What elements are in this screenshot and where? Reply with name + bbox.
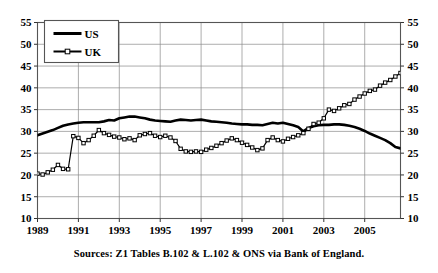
data-point-marker: [297, 134, 300, 137]
x-axis-label: 1989: [27, 224, 50, 236]
data-point-marker: [348, 102, 351, 105]
data-point-marker: [153, 134, 156, 137]
data-point-marker: [41, 173, 44, 176]
data-point-marker: [174, 139, 177, 142]
y-axis-label-right: 40: [408, 82, 420, 94]
y-axis-label-right: 20: [408, 169, 420, 181]
legend-label: US: [85, 28, 99, 40]
data-point-marker: [107, 133, 110, 136]
data-point-marker: [215, 144, 218, 147]
data-point-marker: [235, 138, 238, 141]
data-point-marker: [189, 150, 192, 153]
data-point-marker: [256, 148, 259, 151]
data-point-marker: [291, 135, 294, 138]
line-chart: 10152025303540455055 1015202530354045505…: [0, 0, 438, 273]
data-point-marker: [389, 78, 392, 81]
x-axis-labels: 198919911993199519971999200120032005: [27, 224, 377, 236]
data-point-marker: [363, 92, 366, 95]
y-axis-label-left: 45: [21, 60, 33, 72]
data-point-marker: [383, 81, 386, 84]
x-axis-label: 2005: [354, 224, 377, 236]
data-point-marker: [225, 139, 228, 142]
data-point-marker: [118, 136, 121, 139]
data-point-marker: [251, 146, 254, 149]
y-axis-label-right: 30: [408, 125, 420, 137]
data-point-marker: [322, 117, 325, 120]
x-axis-label: 1999: [231, 224, 254, 236]
data-point-marker: [368, 89, 371, 92]
data-point-marker: [245, 143, 248, 146]
data-point-marker: [82, 141, 85, 144]
data-point-marker: [230, 137, 233, 140]
data-point-marker: [307, 127, 310, 130]
legend-marker-swatch: [65, 49, 70, 54]
data-point-marker: [353, 98, 356, 101]
y-axis-label-left: 35: [21, 103, 33, 115]
data-point-marker: [56, 163, 59, 166]
data-point-marker: [128, 137, 131, 140]
data-point-marker: [394, 75, 397, 78]
data-point-marker: [179, 147, 182, 150]
y-axis-label-right: 45: [408, 60, 420, 72]
y-axis-label-right: 50: [408, 38, 420, 50]
data-point-marker: [194, 150, 197, 153]
source-caption: Sources: Z1 Tables B.102 & L.102 & ONS v…: [0, 248, 438, 259]
y-axis-label-left: 30: [21, 125, 33, 137]
data-point-marker: [332, 109, 335, 112]
data-point-marker: [92, 134, 95, 137]
data-point-marker: [61, 167, 64, 170]
data-point-marker: [133, 138, 136, 141]
data-point-marker: [102, 131, 105, 134]
data-point-marker: [205, 148, 208, 151]
data-point-marker: [199, 150, 202, 153]
data-point-marker: [343, 104, 346, 107]
data-point-marker: [399, 71, 402, 74]
x-axis-label: 1995: [149, 224, 172, 236]
data-point-marker: [317, 121, 320, 124]
data-point-marker: [378, 84, 381, 87]
data-point-marker: [46, 171, 49, 174]
x-axis-label: 2003: [313, 224, 336, 236]
chart-page: 10152025303540455055 1015202530354045505…: [0, 0, 438, 273]
data-point-marker: [373, 88, 376, 91]
data-point-marker: [220, 141, 223, 144]
data-point-marker: [240, 141, 243, 144]
data-point-marker: [327, 108, 330, 111]
x-axis-label: 1993: [108, 224, 131, 236]
y-axis-label-left: 20: [21, 169, 33, 181]
y-axis-left-labels: 10152025303540455055: [21, 16, 33, 224]
x-axis-label: 1991: [67, 224, 89, 236]
y-axis-label-left: 55: [21, 16, 33, 28]
chart-legend[interactable]: USUK: [45, 21, 119, 63]
y-axis-label-left: 10: [21, 212, 33, 224]
data-point-marker: [77, 136, 80, 139]
data-point-marker: [66, 168, 69, 171]
data-series: [36, 71, 402, 176]
y-axis-label-left: 25: [21, 147, 33, 159]
data-point-marker: [72, 134, 75, 137]
data-point-marker: [143, 132, 146, 135]
y-axis-label-right: 10: [408, 212, 420, 224]
data-point-marker: [266, 138, 269, 141]
data-point-marker: [159, 135, 162, 138]
data-point-marker: [148, 131, 151, 134]
series-uk: [36, 71, 402, 176]
series-line-uk: [38, 73, 401, 174]
data-point-marker: [261, 147, 264, 150]
data-point-marker: [97, 128, 100, 131]
data-point-marker: [276, 138, 279, 141]
data-point-marker: [281, 140, 284, 143]
y-axis-label-left: 50: [21, 38, 33, 50]
legend-box[interactable]: [45, 21, 119, 63]
y-axis-label-right: 25: [408, 147, 420, 159]
series-us: [38, 117, 401, 149]
data-point-marker: [312, 122, 315, 125]
x-axis-label: 1997: [190, 224, 213, 236]
legend-label: UK: [85, 46, 102, 58]
data-point-marker: [164, 134, 167, 137]
y-axis-right-labels: 10152025303540455055: [408, 16, 420, 224]
data-point-marker: [51, 168, 54, 171]
data-point-marker: [169, 136, 172, 139]
y-axis-label-right: 15: [408, 191, 420, 203]
data-point-marker: [210, 146, 213, 149]
